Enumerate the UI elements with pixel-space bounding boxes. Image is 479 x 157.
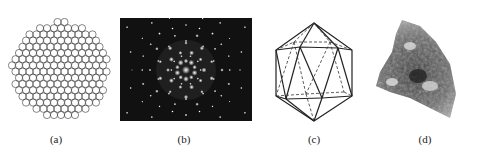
penrose-tiling-image [8, 18, 112, 122]
panel-a-tiling [8, 18, 112, 122]
label-b: (b) [164, 133, 204, 145]
diffraction-pattern-image [120, 18, 252, 121]
panel-d-mineral [370, 16, 470, 120]
panel-b-diffraction [120, 18, 252, 121]
mineral-sample-image [370, 16, 470, 120]
panel-c-icosahedron [268, 20, 360, 124]
label-d: (d) [405, 133, 445, 145]
label-a: (a) [36, 133, 76, 145]
label-c: (c) [294, 133, 334, 145]
icosahedron-diagram [268, 20, 360, 124]
